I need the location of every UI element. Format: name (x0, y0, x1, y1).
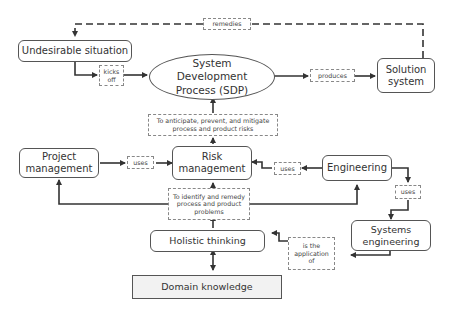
edge-label-identify-problems: To identify and remedy process and produ… (168, 188, 250, 220)
node-label: Project (42, 151, 76, 163)
node-label: system (388, 76, 424, 88)
edge-label-uses-project: uses (127, 156, 154, 169)
node-label: Solution (386, 64, 427, 76)
node-solution-system: Solution system (377, 58, 435, 93)
node-label: engineering (363, 236, 420, 247)
node-label: Systems (371, 224, 411, 235)
remedies-line (234, 24, 423, 58)
node-risk-management: Risk management (172, 146, 252, 180)
node-label: Undesirable situation (22, 45, 128, 57)
node-engineering: Engineering (322, 155, 392, 181)
node-label: Domain knowledge (161, 281, 252, 292)
node-domain-knowledge: Domain knowledge (132, 275, 282, 299)
node-holistic-thinking: Holistic thinking (150, 230, 265, 252)
node-project-management: Project management (19, 148, 99, 178)
node-label: Risk (202, 151, 223, 163)
node-label: Development (177, 70, 248, 83)
edge-label-application-of: is the application of (288, 237, 335, 270)
node-label: System (192, 57, 231, 70)
node-systems-engineering: Systems engineering (351, 220, 431, 251)
edge-label-kicks-off: kicks off (99, 65, 124, 86)
edge-label-remedies: remedies (203, 18, 251, 30)
node-system-development-process: System Development Process (SDP) (149, 54, 275, 100)
edge-label-anticipate-risks: To anticipate, prevent, and mitigate pro… (148, 114, 278, 136)
node-label: Engineering (327, 162, 387, 174)
edge-label-produces: produces (310, 69, 355, 82)
node-label: Process (SDP) (176, 84, 248, 97)
node-undesirable-situation: Undesirable situation (18, 40, 132, 62)
node-label: Holistic thinking (169, 235, 245, 246)
edge-label-uses-systems: uses (395, 185, 421, 199)
node-label: management (26, 163, 93, 175)
edge-label-uses-engineering: uses (274, 162, 301, 175)
node-label: management (179, 163, 246, 175)
